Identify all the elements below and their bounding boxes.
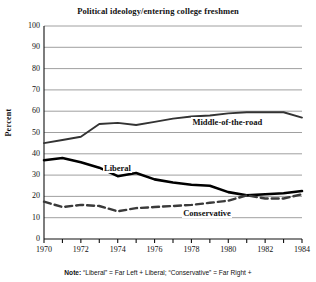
series-label-liberal: Liberal	[103, 163, 132, 173]
y-tick-label: 20	[18, 192, 40, 200]
y-tick-label: 10	[18, 214, 40, 222]
y-tick-label: 70	[18, 86, 40, 94]
series-label-middle-of-the-road: Middle-of-the-road	[191, 117, 263, 127]
y-tick-label: 100	[18, 22, 40, 30]
gridlines	[44, 26, 302, 218]
x-tick-label: 1984	[287, 246, 316, 254]
footnote-prefix: Note:	[64, 269, 81, 276]
y-tick-label: 90	[18, 43, 40, 51]
chart-plot-area	[0, 0, 316, 282]
x-tick-label: 1974	[103, 246, 133, 254]
y-tick-label: 50	[18, 129, 40, 137]
x-tick-label: 1978	[176, 246, 206, 254]
series-line-liberal	[44, 158, 302, 195]
chart-footnote: Note: “Liberal” = Far Left + Liberal; “C…	[0, 268, 316, 277]
chart-figure: Political ideology/entering college fres…	[0, 0, 316, 282]
series-line-middle-of-the-road	[44, 112, 302, 143]
y-tick-label: 30	[18, 171, 40, 179]
x-tick-label: 1976	[140, 246, 170, 254]
series-label-conservative: Conservative	[182, 208, 232, 218]
footnote-text: “Liberal” = Far Left + Liberal; “Conserv…	[83, 269, 252, 276]
x-tick-label: 1972	[66, 246, 96, 254]
y-tick-label: 40	[18, 150, 40, 158]
series-line-conservative	[44, 194, 302, 211]
x-tick-label: 1982	[250, 246, 280, 254]
y-tick-label: 0	[18, 235, 40, 243]
y-tick-label: 60	[18, 107, 40, 115]
x-tick-label: 1970	[29, 246, 59, 254]
y-tick-label: 80	[18, 65, 40, 73]
x-axis-ticks	[44, 239, 302, 243]
x-tick-label: 1980	[213, 246, 243, 254]
